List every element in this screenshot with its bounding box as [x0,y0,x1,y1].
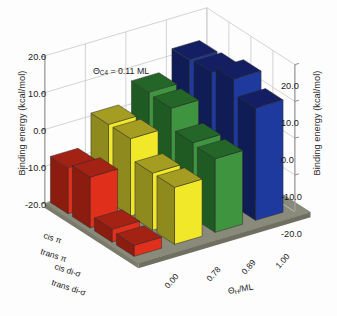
bar-face-side [157,176,175,244]
bar-0_89-3 [197,139,242,232]
bar-face-front [215,151,243,233]
bar-0_78-3 [157,168,202,245]
chart-figure: 20.0 10.0 0.0 -10.0 -20.0 20.0 10.0 0.0 … [0,0,337,316]
z-tick-right-4: -20.0 [281,229,325,239]
bar-face-front [175,179,203,244]
coverage-annotation: ΘC4 = 0.11 ML [93,66,149,76]
bar-face-front [256,100,284,220]
y-axis-title-right: Binding energy (kcal/mol) [312,43,322,203]
y-axis-title-left: Binding energy (kcal/mol) [17,43,27,203]
bar-1_00-3 [238,89,283,221]
